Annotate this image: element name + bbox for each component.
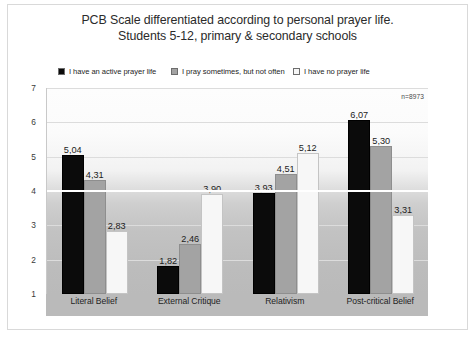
bar[interactable]: 5,30	[370, 146, 392, 294]
bar[interactable]: 4,31	[84, 180, 106, 294]
y-axis-tick-label: 5	[31, 152, 36, 162]
bar-value-label: 5,04	[64, 145, 82, 155]
y-axis-tick-label: 3	[31, 220, 36, 230]
bar-value-label: 2,46	[181, 234, 199, 244]
legend-item-active-prayer: I have an active prayer life	[58, 64, 156, 78]
legend-swatch-icon-series-2	[293, 68, 300, 75]
bar-value-label: 2,83	[108, 221, 126, 231]
legend-swatch-icon-series-0	[58, 68, 65, 75]
bar[interactable]: 3,31	[392, 215, 414, 294]
bar[interactable]: 3,90	[201, 194, 223, 294]
bar-value-label: 3,31	[394, 205, 412, 215]
x-axis: Literal BeliefExternal CritiqueRelativis…	[46, 296, 428, 314]
bar-value-label: 6,07	[350, 110, 368, 120]
legend-label-series-1: I pray sometimes, but not often	[182, 67, 285, 76]
x-axis-category-label: Post-critical Belief	[333, 296, 429, 306]
y-axis-tick-label: 7	[31, 83, 36, 93]
y-axis-tick-label: 6	[31, 117, 36, 127]
bar[interactable]: 2,46	[179, 244, 201, 294]
bar-value-label: 5,30	[372, 136, 390, 146]
bar-value-label: 1,82	[159, 256, 177, 266]
bar[interactable]: 5,04	[62, 155, 84, 294]
legend-label-series-2: I have no prayer life	[304, 67, 370, 76]
x-axis-category-label: Literal Belief	[46, 296, 142, 306]
chart-legend: I have an active prayer life I pray some…	[58, 64, 428, 78]
y-axis-tick-label: 1	[31, 289, 36, 299]
bar[interactable]: 3,93	[253, 193, 275, 294]
bar[interactable]: 6,07	[348, 120, 370, 294]
sample-size-annotation: n=8973	[401, 93, 424, 100]
bar-value-label: 5,12	[299, 143, 317, 153]
legend-item-no-prayer: I have no prayer life	[293, 64, 370, 78]
bar-value-label: 4,51	[277, 164, 295, 174]
slide-canvas: PCB Scale differentiated according to pe…	[0, 0, 475, 338]
y-axis-tick-label: 2	[31, 255, 36, 265]
chart-title-line-2: Students 5-12, primary & secondary schoo…	[30, 28, 445, 44]
chart-title-line-1: PCB Scale differentiated according to pe…	[30, 12, 445, 28]
y-axis-tick-label: 4	[31, 186, 36, 196]
legend-item-sometimes-prayer: I pray sometimes, but not often	[171, 64, 285, 78]
y-axis: 1234567	[0, 88, 44, 294]
bar-value-label: 4,31	[86, 170, 104, 180]
x-axis-category-label: External Critique	[142, 296, 238, 306]
chart-title: PCB Scale differentiated according to pe…	[30, 12, 445, 44]
plot-wrap: n=8973 5,044,312,831,822,463,903,934,515…	[46, 88, 428, 294]
legend-swatch-icon-series-1	[171, 68, 178, 75]
x-axis-category-label: Relativism	[237, 296, 333, 306]
bar[interactable]: 5,12	[297, 153, 319, 294]
legend-label-series-0: I have an active prayer life	[69, 67, 156, 76]
plot-area: n=8973 5,044,312,831,822,463,903,934,515…	[46, 88, 428, 294]
reference-line	[46, 190, 428, 192]
bar[interactable]: 1,82	[157, 266, 179, 294]
bar[interactable]: 2,83	[106, 231, 128, 294]
